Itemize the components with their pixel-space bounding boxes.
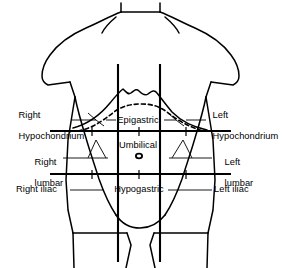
umbilicus-marker [136,154,142,159]
label-hypogastric: Hypogastric [104,184,174,195]
label-right-hypochondrium-line2: Hypochondrium [19,131,85,141]
thigh-left-outer [73,233,74,268]
label-right-hypochondrium: Right Hypochondrium [8,99,84,152]
label-right-hypochondrium-line1: Right [19,110,41,120]
arm-left-inner [70,82,75,97]
label-left-hypochondrium-line1: Left [213,110,229,120]
label-left-hypochondrium-line2: Hypochondrium [213,131,279,141]
leader-right-lumbar-hook [96,140,106,158]
pubic-arch [116,215,165,228]
label-left-lumbar-line1: Left [225,157,241,167]
arm-right-inner [206,82,211,97]
leader-left-lumbar-hook2 [183,140,192,158]
label-left-iliac: Left iliac [214,184,249,195]
label-umbilical: Umbilical [107,140,169,151]
leader-left-lumbar-hook [172,140,183,158]
abdominal-regions-diagram: Right Hypochondrium Epigastric Left Hypo… [0,0,284,268]
label-left-hypochondrium: Left Hypochondrium [202,99,278,152]
label-epigastric: Epigastric [107,115,169,126]
thigh-left-inner [126,233,131,268]
label-right-lumbar-line1: Right [35,157,57,167]
label-right-iliac: Right iliac [16,184,57,195]
thigh-right-inner [150,233,155,268]
thigh-right-outer [207,233,208,268]
